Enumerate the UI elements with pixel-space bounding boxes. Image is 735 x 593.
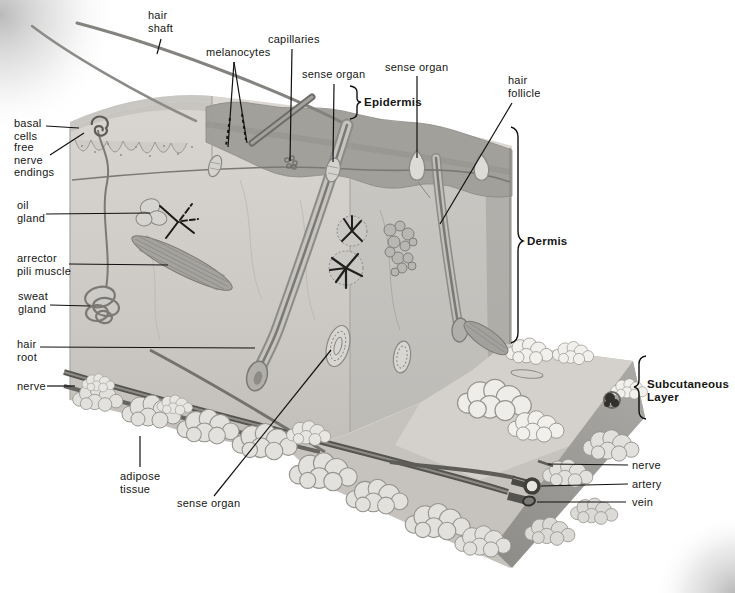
label-oil-gland: oil gland [17,199,45,224]
label-adipose-tissue: adipose tissue [120,470,160,495]
right-face-vessel [604,392,620,408]
label-hair-root: hair root [17,338,37,363]
skin-illustration [0,0,735,593]
label-nerve-right: nerve [632,459,661,472]
dermis-brace [511,127,523,343]
skin-diagram-page: hair shaft melanocytes capillaries sense… [0,0,735,593]
label-melanocytes: melanocytes [206,46,271,59]
label-hair-follicle: hair follicle [508,74,541,99]
label-dermis: Dermis [527,235,568,248]
label-epidermis: Epidermis [364,96,422,109]
label-vein: vein [632,496,653,509]
label-artery: artery [632,478,662,491]
label-hair-shaft: hair shaft [148,9,173,34]
label-sense-organ-top-right: sense organ [385,61,448,74]
label-sweat-gland: sweat gland [18,290,48,315]
label-sense-organ-bottom: sense organ [177,497,240,510]
label-capillaries: capillaries [268,33,320,46]
label-arrector-pili-muscle: arrector pili muscle [17,252,71,277]
label-nerve-left: nerve [17,380,46,393]
label-basal-cells: basal cells [14,117,42,142]
label-free-nerve-endings: free nerve endings [14,141,54,179]
label-sense-organ-top-left: sense organ [302,68,365,81]
label-subcutaneous-layer: Subcutaneous Layer [647,378,729,403]
artery-cut-end [525,479,539,493]
